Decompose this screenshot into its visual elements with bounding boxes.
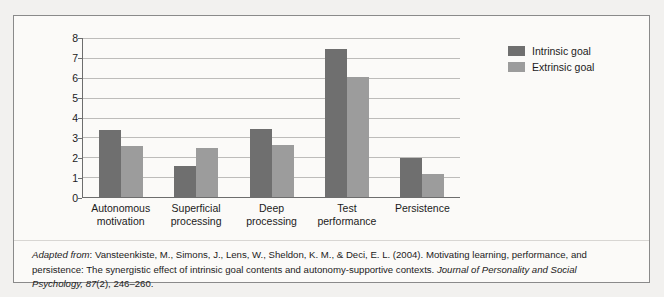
y-tick-label: 7 — [72, 53, 78, 64]
chart-area: 012345678 AutonomousmotivationSuperficia… — [14, 16, 649, 222]
bar-extrinsic — [121, 146, 143, 197]
bar-groups: AutonomousmotivationSuperficialprocessin… — [83, 38, 460, 197]
legend-label: Extrinsic goal — [532, 62, 594, 73]
bar-group: Autonomousmotivation — [83, 38, 158, 197]
legend-item: Extrinsic goal — [508, 62, 594, 73]
plot-region: 012345678 AutonomousmotivationSuperficia… — [82, 38, 460, 198]
y-tick-label: 5 — [72, 93, 78, 104]
bar-group: Deepprocessing — [234, 38, 309, 197]
figure-container: 012345678 AutonomousmotivationSuperficia… — [13, 15, 650, 283]
y-tick-label: 6 — [72, 73, 78, 84]
bar-group: Superficialprocessing — [158, 38, 233, 197]
y-tick-label: 3 — [72, 133, 78, 144]
y-tick-label: 8 — [72, 33, 78, 44]
x-axis-label: Deepprocessing — [246, 202, 297, 228]
plot-inner: AutonomousmotivationSuperficialprocessin… — [82, 38, 460, 198]
bar-extrinsic — [196, 148, 218, 197]
caption-divider — [14, 240, 649, 241]
bar-group: Testperformance — [309, 38, 384, 197]
bar-extrinsic — [272, 145, 294, 197]
chart-legend: Intrinsic goalExtrinsic goal — [508, 46, 594, 77]
bar-intrinsic — [325, 49, 347, 197]
caption-segment-2: (2), 246–260. — [96, 278, 153, 289]
figure-caption: Adapted from: Vansteenkiste, M., Simons,… — [32, 248, 627, 292]
x-axis-label: Autonomousmotivation — [91, 202, 150, 228]
y-tick-label: 2 — [72, 153, 78, 164]
bar-intrinsic — [250, 129, 272, 197]
caption-lead-italic: Adapted from — [32, 249, 90, 260]
legend-label: Intrinsic goal — [532, 46, 591, 57]
bar-group: Persistence — [385, 38, 460, 197]
legend-swatch-extrinsic — [508, 62, 525, 72]
bar-extrinsic — [422, 174, 444, 197]
y-tick-label: 0 — [72, 193, 78, 204]
x-axis-label: Testperformance — [317, 202, 376, 228]
bar-extrinsic — [347, 77, 369, 197]
bar-intrinsic — [99, 130, 121, 197]
legend-item: Intrinsic goal — [508, 46, 594, 57]
bar-intrinsic — [174, 166, 196, 197]
y-tick-label: 4 — [72, 113, 78, 124]
x-axis-label: Persistence — [395, 202, 450, 215]
y-tick-label: 1 — [72, 173, 78, 184]
x-axis-label: Superficialprocessing — [171, 202, 222, 228]
legend-swatch-intrinsic — [508, 46, 525, 56]
y-tick-mark — [78, 198, 82, 199]
bar-intrinsic — [400, 158, 422, 197]
